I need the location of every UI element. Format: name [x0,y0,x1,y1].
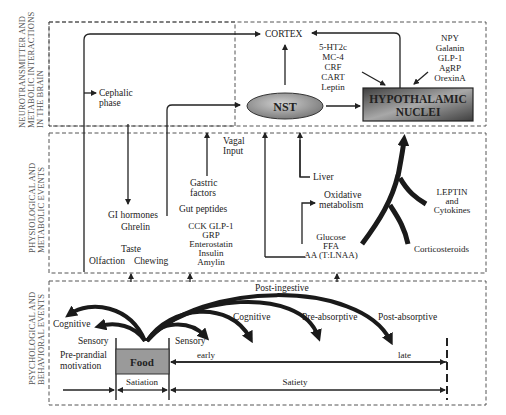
arrow-left-mediators [362,72,385,85]
early-label: early [197,350,215,360]
taste-label: Taste [121,244,141,254]
thick-branch-leptin [400,178,426,204]
svg-text:GLP-1: GLP-1 [438,53,463,63]
gi-hormones-label: GI hormones [108,210,158,220]
svg-text:MC-4: MC-4 [322,52,344,62]
post-absorptive-label: Post-absorptive [378,312,437,322]
cytokines-label: Cytokines [434,205,471,215]
cephalic-label-2: phase [99,98,121,108]
food-label: Food [130,356,154,368]
hypothalamic-label: HYPOTHALAMIC [369,93,467,105]
arrow-to-oxidative [302,203,315,244]
svg-text:AgRP: AgRP [439,63,461,73]
arrow-to-nst [167,105,240,216]
chewing-label: Chewing [134,256,169,266]
pre-prandial-label-2: motivation [60,361,101,371]
oxidative-label: Oxidative [324,190,361,200]
pre-prandial-label: Pre-prandial [60,350,107,360]
cortex-label: CORTEX [265,29,303,39]
side-label-physiological: PHYSIOLOGICAL AND METABOLIC EVENTS [27,163,46,253]
svg-text:AA (T:LNAA): AA (T:LNAA) [304,250,357,260]
svg-text:Leptin: Leptin [321,82,345,92]
svg-text:CART: CART [321,72,345,82]
oxidative-label-2: metabolism [319,200,364,210]
ghrelin-label: Ghrelin [121,222,150,232]
sensory-right-label: Sensory [175,336,206,346]
gastric-label: Gastric [190,178,217,188]
svg-text:Galanin: Galanin [436,43,465,53]
cephalic-label: Cephalic [99,88,133,98]
thick-arrow-to-hypothalamic [398,140,404,176]
sensory-left-label: Sensory [78,336,109,346]
peptide-list: CCK GLP-1 GRP Enterostatin Insulin Amyli… [188,221,233,267]
nutrients-list: Glucose FFA AA (T:LNAA) [304,232,357,260]
nst-label: NST [273,100,296,114]
left-mediators-list: 5-HT2c MC-4 CRF CART Leptin [319,42,347,92]
satiation-label: Satiation [126,377,158,387]
arrow-right-mediators [414,72,428,84]
svg-text:5-HT2c: 5-HT2c [319,42,347,52]
right-mediators-list: NPY Galanin GLP-1 AgRP OrexinA [434,33,466,83]
satiety-label: Satiety [283,377,308,387]
svg-text:METABOLIC EVENTS: METABOLIC EVENTS [36,167,46,253]
late-label: late [398,350,411,360]
svg-text:BEHAVIORAL EVENTS: BEHAVIORAL EVENTS [36,294,46,385]
thick-branch-corticosteroids [390,205,408,244]
liver-bracket [300,140,310,177]
vagal-label-2: Input [223,146,243,156]
post-ingestive-label: Post-ingestive [255,283,309,293]
svg-text:NPY: NPY [441,33,460,43]
svg-text:Amylin: Amylin [197,257,225,267]
gastric-label-2: factors [190,188,216,198]
satiety-cascade-diagram: NEUROTRANSMITTER AND METABOLIC INTERACTI… [0,0,506,415]
cognitive-right-label: Cognitive [233,312,270,322]
cognitive-left-label: Cognitive [53,319,90,329]
panel-brain-border [49,22,235,126]
gut-peptides-label: Gut peptides [179,204,228,214]
svg-text:IN THE BRAIN: IN THE BRAIN [35,69,45,128]
panel-behavioral [49,281,486,405]
hypothalamic-label-2: NUCLEI [396,106,441,118]
olfaction-label: Olfaction [89,256,125,266]
svg-text:OrexinA: OrexinA [434,73,466,83]
corticosteroids-label: Corticosteroids [414,244,469,254]
liver-label: Liver [313,172,334,182]
vagal-label: Vagal [223,136,245,146]
side-label-behavioral: PSYCHOLOGICAL AND BEHAVIORAL EVENTS [27,292,46,385]
svg-text:CRF: CRF [324,62,341,72]
side-label-brain: NEUROTRANSMITTER AND METABOLIC INTERACTI… [17,12,45,128]
